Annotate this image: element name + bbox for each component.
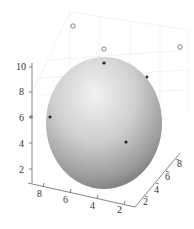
open-markers: [71, 24, 182, 51]
sphere-surface: [46, 57, 162, 189]
z-tick-label: 4: [19, 138, 24, 149]
data-point: [146, 76, 149, 79]
y-tick-label: 4: [154, 184, 159, 195]
data-point: [102, 61, 105, 64]
x-tick-label: 4: [90, 200, 95, 211]
data-point: [71, 24, 75, 28]
z-axis: 10 8 6 4 2: [16, 61, 32, 183]
y-tick-label: 8: [177, 158, 182, 169]
data-point: [49, 116, 52, 119]
x-tick-label: 2: [117, 204, 122, 215]
data-point: [102, 47, 106, 51]
z-tick-label: 8: [19, 86, 24, 97]
data-point: [178, 45, 182, 49]
x-tick-label: 6: [63, 194, 68, 205]
data-point: [124, 140, 127, 143]
y-tick-label: 2: [143, 196, 148, 207]
z-tick-label: 2: [19, 164, 24, 175]
y-tick-label: 6: [165, 171, 170, 182]
z-tick-label: 6: [19, 112, 24, 123]
x-tick-label: 8: [37, 188, 42, 199]
3d-scatter-plot: 10 8 6 4 2 8 6 4 2 2 4 6 8: [0, 0, 194, 229]
x-axis: 8 6 4 2: [28, 183, 135, 215]
z-tick-label: 10: [16, 61, 26, 72]
